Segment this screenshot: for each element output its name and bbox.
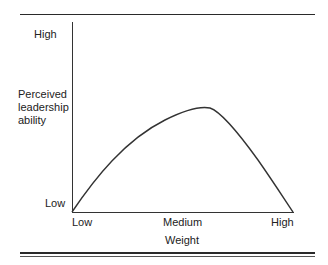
bottom-rule-thick: [20, 252, 315, 254]
y-axis-title-line3: ability: [18, 114, 69, 127]
x-tick-low: Low: [72, 216, 92, 229]
y-axis-title-line2: leadership: [18, 101, 69, 114]
bottom-rule-thin: [20, 256, 315, 257]
y-tick-low: Low: [45, 197, 65, 210]
x-axis-title: Weight: [165, 234, 199, 247]
x-tick-high: High: [271, 216, 294, 229]
y-axis-title-line1: Perceived: [18, 88, 69, 101]
y-axis-title: Perceived leadership ability: [18, 88, 69, 127]
y-tick-high: High: [34, 28, 57, 41]
leadership-curve: [72, 108, 293, 213]
x-tick-medium: Medium: [163, 216, 202, 229]
